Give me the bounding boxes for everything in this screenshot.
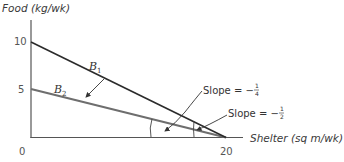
y-tick-10: 10 xyxy=(14,36,27,47)
svg-text:1: 1 xyxy=(255,82,259,89)
svg-text:1: 1 xyxy=(97,67,101,75)
svg-text:1: 1 xyxy=(280,105,284,112)
y-axis-title: Food (kg/wk) xyxy=(2,2,70,14)
svg-text:Slope = −: Slope = − xyxy=(203,85,254,96)
svg-text:B: B xyxy=(53,83,62,96)
svg-text:B: B xyxy=(88,60,97,73)
leader-slope-half xyxy=(197,115,227,130)
slope-label-quarter: Slope = − 1 4 xyxy=(203,82,259,97)
svg-text:4: 4 xyxy=(255,90,259,97)
svg-text:2: 2 xyxy=(280,113,284,120)
svg-text:Slope = −: Slope = − xyxy=(228,108,279,119)
shift-arrow-icon xyxy=(86,79,104,97)
x-tick-20: 20 xyxy=(220,146,233,157)
b2-label: B 2 xyxy=(53,83,66,98)
b1-label: B 1 xyxy=(88,60,101,75)
y-tick-5: 5 xyxy=(18,84,24,95)
x-axis-title: Shelter (sq m/wk) xyxy=(250,132,343,144)
origin-label: 0 xyxy=(19,146,25,157)
budget-constraint-chart: Food (kg/wk) Shelter (sq m/wk) 10 5 0 20… xyxy=(0,0,344,162)
angle-arc-b1 xyxy=(194,121,195,137)
svg-text:2: 2 xyxy=(62,90,66,98)
angle-arc-b2 xyxy=(150,119,152,137)
slope-label-half: Slope = − 1 2 xyxy=(228,105,284,120)
budget-line-b2 xyxy=(31,89,226,138)
